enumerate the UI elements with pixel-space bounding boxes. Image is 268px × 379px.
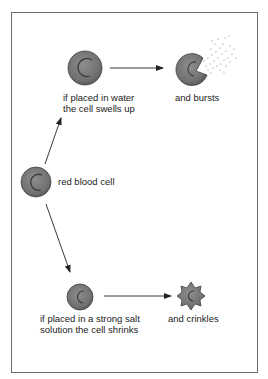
swollen-label: if placed in water the cell swells up bbox=[63, 92, 135, 114]
swollen-label-line2: the cell swells up bbox=[63, 103, 135, 114]
shrunk-label-line1: if placed in a strong salt bbox=[40, 313, 140, 324]
crinkled-label: and crinkles bbox=[168, 313, 219, 324]
red-blood-cell-icon bbox=[21, 167, 51, 197]
shrunk-label-line2: solution the cell shrinks bbox=[40, 324, 140, 335]
rbc-label: red blood cell bbox=[58, 176, 115, 187]
arrow-rbc-to-swollen bbox=[45, 118, 61, 164]
arrow-rbc-to-shrunk bbox=[46, 204, 70, 272]
swollen-cell-icon bbox=[68, 51, 102, 85]
shrunk-cell-icon bbox=[67, 284, 93, 310]
burst-label: and bursts bbox=[175, 92, 219, 103]
burst-cell-icon bbox=[176, 35, 237, 85]
crinkled-cell-icon bbox=[177, 282, 205, 310]
swollen-label-line1: if placed in water bbox=[63, 92, 135, 103]
shrunk-label: if placed in a strong salt solution the … bbox=[40, 313, 140, 335]
